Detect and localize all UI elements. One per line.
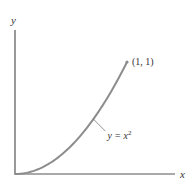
curve-label-base: y = x — [106, 130, 128, 141]
curve-y-equals-x-squared — [15, 62, 127, 174]
y-axis-label: y — [10, 14, 16, 26]
point-1-1-marker — [125, 60, 128, 63]
chart: y x (1, 1) y = x2 — [0, 0, 192, 185]
curve-label-exponent: 2 — [128, 129, 132, 137]
x-axis-label: x — [179, 168, 185, 180]
curve-label-leader-line — [93, 119, 105, 131]
curve-label: y = x2 — [106, 129, 132, 141]
point-label-1-1: (1, 1) — [132, 56, 154, 68]
